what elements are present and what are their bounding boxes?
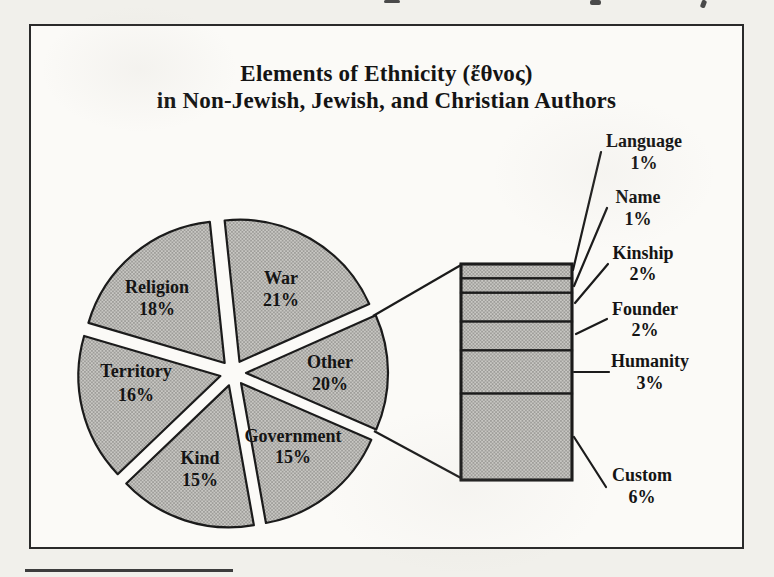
bar-segment-language [461,264,572,278]
bar-segment-humanity [461,350,572,393]
pie-to-bar-connector [373,265,461,316]
bar-pct-humanity: 3% [637,373,664,393]
bar-label-kinship: Kinship [612,243,673,263]
scanned-page: { "chart_data": { "type": "bar-of-pie", … [0,0,774,577]
bar-label-humanity: Humanity [611,351,689,371]
pie-label-other: Other [307,352,353,372]
footnote-rule [25,569,233,572]
pie-pct-territory: 16% [118,385,154,405]
pie-label-kind: Kind [180,448,219,468]
bar-pct-kinship: 2% [630,264,657,284]
leader-line-language [573,152,601,270]
leader-line-founder [576,319,607,334]
pie-to-bar-connector [374,431,461,478]
pie-pct-government: 15% [275,447,311,467]
bar-pct-founder: 2% [632,320,659,340]
bar-segment-founder [461,322,572,351]
bar-label-language: Language [606,131,682,151]
bar-label-name: Name [616,187,661,207]
pie-pct-war: 21% [263,290,299,310]
pie-label-religion: Religion [125,277,189,297]
pie-pct-kind: 15% [182,470,218,490]
bar-label-custom: Custom [612,465,672,485]
bar-segment-custom [461,394,572,480]
bar-label-founder: Founder [612,299,678,319]
pie-label-war: War [264,268,298,288]
bar-pct-language: 1% [631,153,658,173]
bar-segment-kinship [461,293,572,322]
pie-pct-other: 20% [312,374,348,394]
bar-pct-custom: 6% [629,487,656,507]
bar-segment-name [461,278,572,292]
pie-label-territory: Territory [100,361,171,381]
pie-label-government: Government [245,426,342,446]
pie-pct-religion: 18% [139,299,175,319]
leader-line-custom [574,437,606,487]
bar-pct-name: 1% [625,209,652,229]
bar-of-pie-chart: War21%Other20%Government15%Kind15%Territ… [0,0,774,577]
